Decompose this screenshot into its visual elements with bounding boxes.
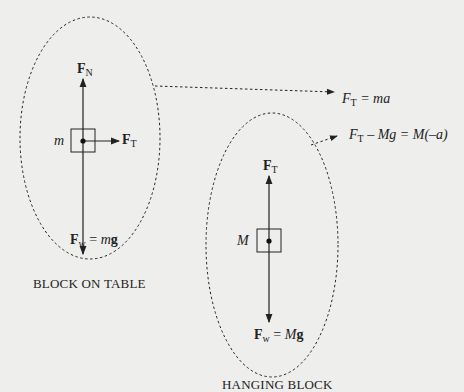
diagram-canvas xyxy=(0,0,464,392)
weight-label-hanging: Fw = Mg xyxy=(254,328,303,342)
mass-M-label: M xyxy=(237,234,249,248)
center-dot-m xyxy=(80,138,85,143)
normal-force-label: FN xyxy=(77,62,93,76)
equation-hanging: FT – Mg = M(–a) xyxy=(349,128,448,142)
weight-label-table: Fw = mg xyxy=(70,233,118,247)
caption-hanging-block: HANGING BLOCK xyxy=(222,377,333,392)
mass-m-label: m xyxy=(54,134,64,148)
tension-force-label-table: FT xyxy=(122,133,137,147)
caption-block-on-table: BLOCK ON TABLE xyxy=(33,276,146,292)
block-on-table-boundary xyxy=(20,17,160,259)
equation-table: FT = ma xyxy=(342,92,390,106)
leader-line-hanging xyxy=(311,136,337,145)
tension-force-label-hanging: FT xyxy=(263,159,278,173)
center-dot-M xyxy=(266,238,271,243)
leader-line-table xyxy=(155,86,334,92)
